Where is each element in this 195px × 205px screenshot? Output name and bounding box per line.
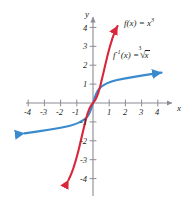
y-tick-label-3: 3 [83,42,87,51]
x-tick-label--1: -1 [72,108,79,117]
x-tick-label--3: -3 [40,108,47,117]
cube-root-radical: 3√x [139,50,150,60]
x-tick-label-4: 4 [155,108,159,117]
radicand: x [145,50,150,60]
y-tick-label-1: 1 [83,80,87,89]
cubic-label-exponent: 3 [151,16,154,23]
cubic-function-label: f(x) = x3 [124,19,154,28]
y-tick-label--1: -1 [80,118,87,127]
x-tick-label--2: -2 [56,108,63,117]
x-axis-label: x [177,104,181,113]
x-tick-label--4: -4 [24,108,31,117]
radical-index: 3 [139,46,142,52]
graph-canvas [0,0,195,205]
y-tick-label-2: 2 [83,61,87,70]
y-tick-label--3: -3 [80,156,87,165]
y-axis-label: y [85,10,89,19]
x-axis [26,100,172,107]
x-tick-label-3: 3 [139,108,143,117]
x-tick-label-2: 2 [123,108,127,117]
y-tick-label--2: -2 [80,137,87,146]
inverse-label-arg: (x) [121,50,131,60]
x-tick-label-1: 1 [107,108,111,117]
function-graph-figure: -4 -3 -2 -1 1 2 3 4 4 3 2 1 -1 -2 -3 -4 … [0,0,195,205]
cube-root-function-label: f-1(x) =3√x [113,50,150,60]
y-tick-label-4: 4 [83,24,87,33]
y-tick-label--4: -4 [80,175,87,184]
cubic-label-fx: f(x) [124,18,137,28]
cubic-label-equals: = [139,18,145,28]
